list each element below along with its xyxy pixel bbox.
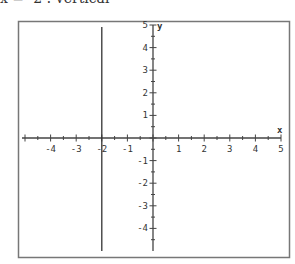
x-tick-label: 3 — [227, 144, 232, 154]
y-tick-label: 5 — [143, 20, 148, 30]
plot-frame — [19, 22, 290, 258]
y-tick-label: -1 — [137, 156, 148, 166]
x-tick-label: 5 — [278, 144, 283, 154]
y-tick-label: -2 — [137, 178, 148, 188]
x-tick-label: -1 — [122, 144, 133, 154]
x-tick-label: -4 — [45, 144, 56, 154]
x-tick-label: 2 — [201, 144, 206, 154]
y-tick-label: 4 — [143, 43, 148, 53]
x-axis-label: x — [277, 125, 283, 135]
y-tick-label: 1 — [143, 110, 148, 120]
tick-labels: -4-3-2-112345-4-3-2-112345 — [45, 20, 284, 233]
x-tick-label: -3 — [71, 144, 82, 154]
x-tick-label: 4 — [253, 144, 258, 154]
y-tick-label: 2 — [143, 88, 148, 98]
y-tick-label: -3 — [137, 201, 148, 211]
x-tick-label: 1 — [176, 144, 181, 154]
y-tick-label: -4 — [137, 223, 148, 233]
y-tick-label: 3 — [143, 65, 148, 75]
y-axis-label: y — [157, 21, 163, 31]
coordinate-plane: -4-3-2-112345-4-3-2-112345 x y — [0, 0, 295, 264]
